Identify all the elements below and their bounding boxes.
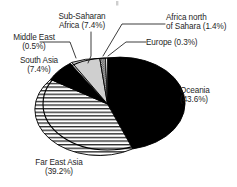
pie-label-sub-saharan-africa: Sub-Saharan Africa (7.4%) (46, 12, 118, 31)
leader-line-europe (108, 42, 146, 56)
pie-label-far-east-asia: Far East Asia (39.2%) (18, 158, 100, 177)
pie-label-middle-east: Middle East (0.5%) (2, 33, 66, 52)
pie-label-europe: Europe (0.3%) (146, 38, 226, 47)
pie-chart: Sub-Saharan Africa (7.4%) Africa north o… (0, 0, 237, 187)
pie-label-south-asia: South Asia (7.4%) (8, 56, 70, 75)
pie-label-oceania: Oceania (43.6%) (180, 86, 236, 105)
pie-label-africa-north-of-sahara: Africa north of Sahara (1.4%) (166, 13, 237, 32)
scan-artifact (116, 1, 118, 6)
